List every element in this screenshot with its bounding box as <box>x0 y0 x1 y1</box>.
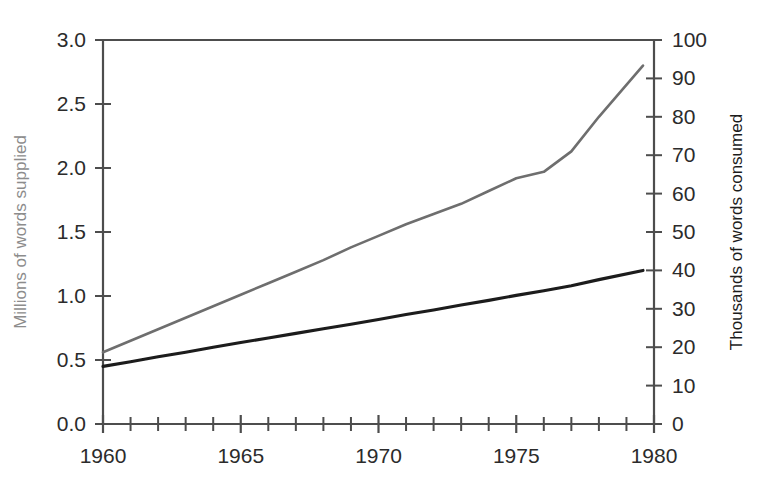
left-tick-label: 1.5 <box>57 220 86 243</box>
right-tick-label: 70 <box>672 143 695 166</box>
right-tick-label: 40 <box>672 258 695 281</box>
left-tick-label: 0.0 <box>57 412 86 435</box>
left-tick-label: 2.5 <box>57 92 86 115</box>
left-tick-label: 3.0 <box>57 28 86 51</box>
left-axis-title: Millions of words supplied <box>11 135 30 329</box>
right-tick-label: 30 <box>672 297 695 320</box>
right-tick-label: 10 <box>672 374 695 397</box>
left-tick-label: 0.5 <box>57 348 86 371</box>
right-tick-label: 50 <box>672 220 695 243</box>
x-tick-label: 1965 <box>217 444 264 467</box>
left-tick-label: 2.0 <box>57 156 86 179</box>
x-tick-label: 1975 <box>493 444 540 467</box>
left-tick-label: 1.0 <box>57 284 86 307</box>
x-axis-ticks <box>103 415 654 433</box>
x-tick-label: 1970 <box>355 444 402 467</box>
right-tick-label: 80 <box>672 105 695 128</box>
right-tick-label: 0 <box>672 412 684 435</box>
right-tick-label: 20 <box>672 335 695 358</box>
chart-container: 0.00.51.01.52.02.53.0 010203040506070809… <box>0 0 765 498</box>
x-tick-label: 1980 <box>631 444 678 467</box>
dual-axis-line-chart: 0.00.51.01.52.02.53.0 010203040506070809… <box>0 0 765 498</box>
right-axis-title: Thousands of words consumed <box>727 114 746 350</box>
right-tick-label: 90 <box>672 66 695 89</box>
x-tick-label: 1960 <box>80 444 127 467</box>
right-tick-label: 100 <box>672 28 707 51</box>
right-tick-label: 60 <box>672 182 695 205</box>
